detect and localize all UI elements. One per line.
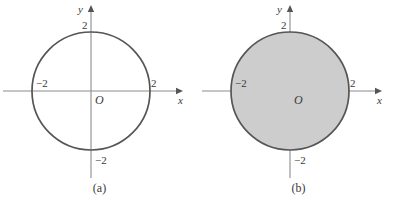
- tick-label-y-top: 2: [82, 20, 88, 31]
- panel-b: 2 2 −2 −2 x y O (b): [199, 0, 398, 201]
- tick-label-y-bottom: −2: [95, 155, 107, 166]
- y-axis-label: y: [277, 4, 282, 15]
- caption-b: (b): [199, 182, 398, 194]
- figure-container: 2 2 −2 −2 x y O (a) 2 2 −2 −2 x y: [0, 0, 398, 201]
- origin-label: O: [95, 94, 104, 106]
- tick-label-x-left: −2: [36, 78, 48, 89]
- y-axis-arrowhead: [287, 5, 293, 12]
- tick-label-x-right: 2: [350, 78, 356, 89]
- tick-label-x-right: 2: [151, 78, 157, 89]
- tick-label-y-bottom: −2: [294, 155, 306, 166]
- tick-label-x-left: −2: [235, 78, 247, 89]
- shaded-disk-radius-2: [231, 32, 349, 150]
- x-axis-label: x: [178, 95, 183, 106]
- tick-label-y-top: 2: [281, 20, 287, 31]
- panel-a: 2 2 −2 −2 x y O (a): [0, 0, 199, 201]
- x-axis-label: x: [377, 95, 382, 106]
- y-axis-label: y: [78, 4, 83, 15]
- y-axis-arrowhead: [88, 5, 94, 12]
- caption-a: (a): [0, 182, 199, 194]
- origin-label: O: [294, 94, 303, 106]
